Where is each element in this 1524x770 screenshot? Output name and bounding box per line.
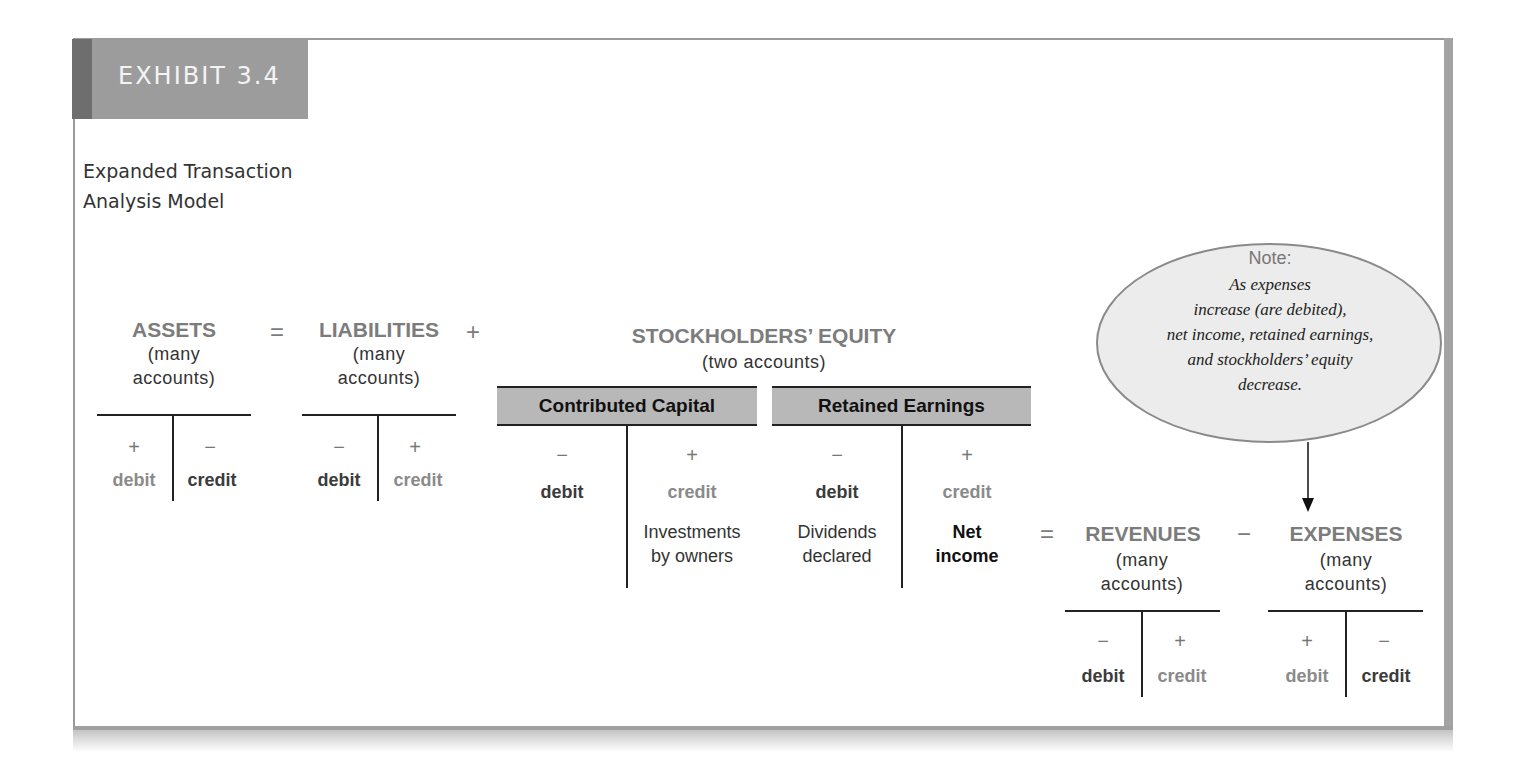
note-line-1: As expenses [1110,272,1430,297]
note-body: As expenses increase (are debited), net … [1110,272,1430,397]
note-line-2: increase (are debited), [1110,297,1430,322]
arrow-down-icon [1302,498,1314,512]
note-line-3: net income, retained earnings, [1110,322,1430,347]
note-line-5: decrease. [1110,372,1430,397]
note-line-4: and stockholders’ equity [1110,347,1430,372]
note-title: Note: [1230,248,1310,269]
